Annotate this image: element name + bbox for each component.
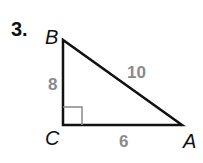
right-angle-mark <box>63 107 82 125</box>
vertex-label-a: A <box>182 130 196 152</box>
side-label-ca: 6 <box>119 132 128 151</box>
vertex-label-c: C <box>45 127 60 149</box>
side-label-bc: 8 <box>48 75 57 94</box>
side-label-ab: 10 <box>127 63 146 82</box>
right-triangle <box>63 40 182 125</box>
problem-number: 3. <box>11 18 28 40</box>
triangle-diagram: 3. B C A 8 10 6 <box>0 0 203 163</box>
vertex-label-b: B <box>45 26 58 48</box>
